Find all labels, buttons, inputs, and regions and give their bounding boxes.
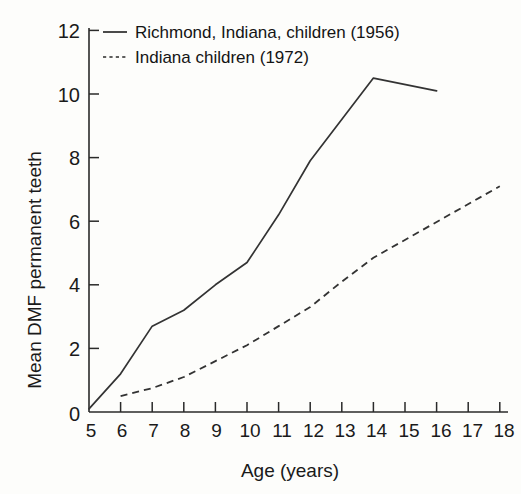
series-line-indiana-1972 (121, 186, 500, 396)
chart-legend: Richmond, Indiana, children (1956) India… (103, 23, 400, 67)
y-axis-title: Mean DMF permanent teeth (24, 151, 45, 389)
x-ticklabel-11: 11 (272, 420, 292, 441)
y-axis: 12 10 8 6 4 2 0 Mean DMF permanent teeth (24, 20, 99, 425)
y-ticklabel-12: 12 (58, 20, 80, 42)
y-ticklabel-8: 8 (69, 147, 80, 169)
x-ticklabel-7: 7 (148, 420, 159, 441)
y-ticklabel-6: 6 (69, 211, 80, 233)
legend-label-indiana-1972: Indiana children (1972) (135, 48, 309, 67)
y-ticklabel-4: 4 (69, 274, 80, 296)
x-ticklabel-17: 17 (462, 420, 483, 441)
y-ticklabel-10: 10 (58, 84, 80, 106)
chart-figure: 12 10 8 6 4 2 0 Mean DMF permanent teeth (0, 0, 521, 494)
series-line-richmond-1956 (89, 78, 437, 409)
x-ticklabel-14: 14 (366, 420, 388, 441)
x-ticklabel-8: 8 (180, 420, 191, 441)
x-ticklabel-6: 6 (117, 420, 128, 441)
x-axis-title: Age (years) (241, 460, 339, 481)
x-ticklabel-10: 10 (239, 420, 260, 441)
x-ticklabel-13: 13 (334, 420, 355, 441)
x-ticklabel-12: 12 (303, 420, 324, 441)
x-ticklabel-18: 18 (493, 420, 514, 441)
x-ticklabel-9: 9 (211, 420, 222, 441)
x-axis: 5 6 7 8 9 10 11 12 13 14 15 16 17 18 Age… (86, 402, 515, 481)
y-ticklabel-2: 2 (69, 338, 80, 360)
x-ticklabel-15: 15 (398, 420, 419, 441)
line-chart-canvas: 12 10 8 6 4 2 0 Mean DMF permanent teeth (0, 0, 521, 494)
x-ticklabel-5: 5 (86, 420, 97, 441)
y-ticklabel-0: 0 (69, 403, 80, 425)
legend-label-richmond-1956: Richmond, Indiana, children (1956) (135, 23, 400, 42)
x-ticklabel-16: 16 (430, 420, 451, 441)
